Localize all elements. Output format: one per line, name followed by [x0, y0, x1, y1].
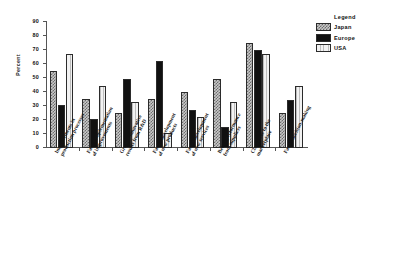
bar-group [148, 22, 172, 148]
y-tick-label: 30 [33, 102, 39, 108]
legend: Legend JapanEuropeUSA [316, 14, 392, 54]
y-tick-label: 40 [33, 88, 39, 94]
legend-swatch-europe [316, 34, 331, 42]
bar-group [50, 22, 74, 148]
y-tick-label: 50 [33, 74, 39, 80]
x-tick [144, 148, 145, 151]
legend-item-europe[interactable]: Europe [316, 33, 392, 42]
y-tick-label: 80 [33, 32, 39, 38]
y-tick: 90 [43, 21, 47, 22]
bar-japan [115, 113, 122, 148]
bar-japan [213, 79, 220, 148]
bar-usa [99, 86, 106, 148]
y-tick: 20 [43, 119, 47, 120]
bar-japan [50, 71, 57, 148]
bar-usa [131, 102, 138, 148]
bar-japan [246, 43, 253, 148]
legend-label: USA [334, 45, 347, 51]
legend-item-japan[interactable]: Japan [316, 23, 392, 32]
bar-group [213, 22, 237, 148]
bar-usa [164, 133, 171, 148]
y-tick: 70 [43, 49, 47, 50]
y-tick-label: 60 [33, 60, 39, 66]
legend-label: Europe [334, 35, 355, 41]
bar-japan [279, 113, 286, 148]
y-tick-label: 70 [33, 46, 39, 52]
bar-group [115, 22, 139, 148]
y-tick-label: 20 [33, 116, 39, 122]
y-tick: 50 [43, 77, 47, 78]
x-tick [177, 148, 178, 151]
y-tick: 40 [43, 91, 47, 92]
x-tick [210, 148, 211, 151]
x-tick [112, 148, 113, 151]
bar-japan [82, 99, 89, 148]
legend-item-usa[interactable]: USA [316, 44, 392, 53]
bar-group [246, 22, 270, 148]
legend-swatch-usa [316, 44, 331, 52]
bar-group [279, 22, 303, 148]
legend-label: Japan [334, 24, 352, 30]
bar-europe [221, 127, 228, 148]
bar-usa [230, 102, 237, 148]
x-tick [79, 148, 80, 151]
bar-europe [254, 50, 261, 148]
bar-usa [295, 86, 302, 148]
bar-europe [156, 61, 163, 148]
y-tick: 0 [43, 147, 47, 148]
y-tick: 80 [43, 35, 47, 36]
y-axis-line [46, 22, 47, 148]
bar-europe [90, 119, 97, 148]
legend-swatch-japan [316, 23, 331, 31]
x-tick [275, 148, 276, 151]
bar-europe [123, 79, 130, 148]
bar-europe [189, 110, 196, 148]
bar-group [181, 22, 205, 148]
y-tick: 60 [43, 63, 47, 64]
bar-chart: Percent 0102030405060708090 Improvements… [0, 0, 394, 276]
bar-japan [148, 99, 155, 148]
legend-title: Legend [334, 14, 392, 20]
bar-europe [287, 100, 294, 148]
plot-area: 0102030405060708090 [46, 22, 308, 148]
y-axis-title: Percent [15, 35, 21, 95]
x-tick [243, 148, 244, 151]
bar-usa [66, 54, 73, 148]
y-tick-label: 0 [36, 144, 39, 150]
y-tick: 30 [43, 105, 47, 106]
y-tick-label: 90 [33, 18, 39, 24]
bar-usa [262, 54, 269, 148]
bar-group [82, 22, 106, 148]
bar-usa [197, 117, 204, 148]
legend-entries: JapanEuropeUSA [316, 23, 392, 53]
y-tick: 10 [43, 133, 47, 134]
bar-europe [58, 105, 65, 148]
bar-japan [181, 92, 188, 148]
y-tick-label: 10 [33, 130, 39, 136]
